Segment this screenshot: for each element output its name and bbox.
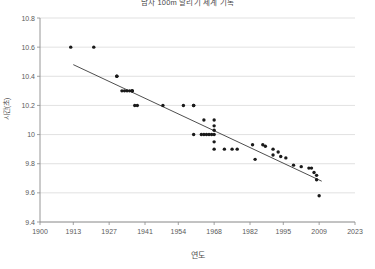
data-point — [276, 150, 279, 153]
data-point — [212, 118, 215, 121]
x-tick-label: 1927 — [101, 228, 117, 235]
data-point — [292, 163, 295, 166]
data-point — [251, 143, 254, 146]
data-point — [279, 155, 282, 158]
x-tick-label: 1968 — [206, 228, 222, 235]
y-tick-labels: 9.49.69.81010.210.410.610.8 — [21, 15, 35, 226]
x-tick-label: 1995 — [276, 228, 292, 235]
x-tick-labels: 1900191319271941195419681982199520092023 — [32, 228, 363, 235]
y-tick-label: 9.6 — [25, 189, 35, 196]
plot-area: 9.49.69.81010.210.410.610.8 190019131927… — [0, 0, 375, 269]
data-point — [271, 153, 274, 156]
data-point — [202, 118, 205, 121]
x-tick-label: 1982 — [242, 228, 258, 235]
data-point — [130, 89, 133, 92]
data-point — [310, 166, 313, 169]
data-point — [317, 194, 320, 197]
x-tick-label: 1900 — [32, 228, 48, 235]
data-point — [315, 178, 318, 181]
x-tick-label: 1954 — [171, 228, 187, 235]
y-tick-label: 10.6 — [21, 44, 35, 51]
y-tick-label: 10.8 — [21, 15, 35, 22]
data-point — [315, 174, 318, 177]
data-point — [300, 165, 303, 168]
data-point — [192, 133, 195, 136]
axis-lines — [40, 18, 355, 222]
y-tick-label: 10 — [27, 131, 35, 138]
data-point — [212, 140, 215, 143]
y-tick-label: 10.2 — [21, 102, 35, 109]
chart-figure: 남자 100m 달리기 세계 기록 시간(초) 연도 9.49.69.81010… — [0, 0, 375, 269]
data-point — [212, 124, 215, 127]
data-point — [182, 104, 185, 107]
data-point — [161, 104, 164, 107]
data-point — [253, 158, 256, 161]
x-tick-label: 2023 — [347, 228, 363, 235]
y-tick-label: 10.4 — [21, 73, 35, 80]
data-point — [223, 147, 226, 150]
data-point — [136, 104, 139, 107]
data-point — [212, 147, 215, 150]
x-tick-label: 1913 — [66, 228, 82, 235]
x-tick-label: 2009 — [311, 228, 327, 235]
y-tick-label: 9.4 — [25, 219, 35, 226]
data-point — [284, 156, 287, 159]
y-tick-label: 9.8 — [25, 160, 35, 167]
data-point — [264, 145, 267, 148]
data-point — [115, 75, 118, 78]
data-point — [271, 147, 274, 150]
data-point — [235, 147, 238, 150]
data-point — [212, 133, 215, 136]
data-point — [212, 129, 215, 132]
x-tick-label: 1941 — [137, 228, 153, 235]
data-point — [192, 104, 195, 107]
data-point — [312, 171, 315, 174]
data-point — [92, 45, 95, 48]
gridlines — [40, 18, 355, 222]
data-point — [69, 45, 72, 48]
data-point — [230, 147, 233, 150]
